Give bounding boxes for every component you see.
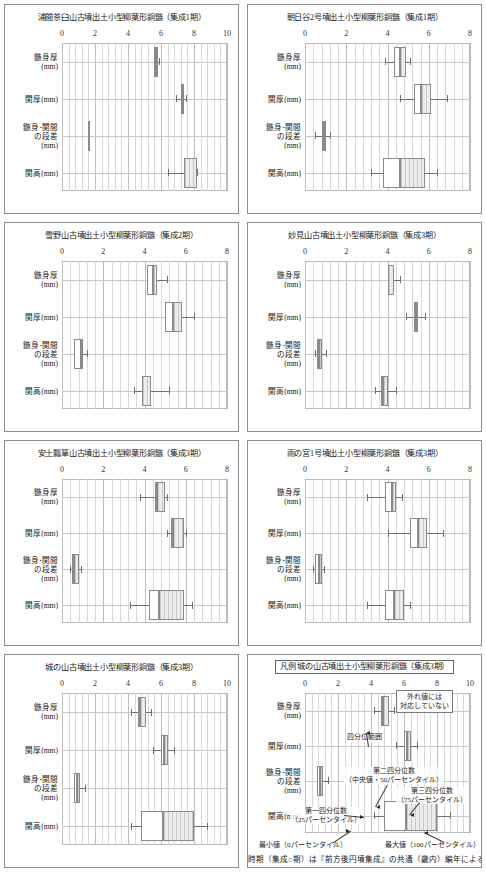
gridline-major bbox=[103, 261, 104, 409]
y-axis-label-3: 鏃身-関間の段差(mm) bbox=[247, 122, 301, 149]
x-tick-label: 8 bbox=[468, 465, 472, 474]
gridline-minor bbox=[121, 693, 122, 845]
x-tick-label: 6 bbox=[159, 679, 163, 688]
x-tick-label: 4 bbox=[143, 247, 147, 256]
whisker-cap-max bbox=[186, 95, 187, 102]
gridline-major bbox=[186, 479, 187, 623]
y-axis-label-2: 関厚(mm) bbox=[4, 94, 58, 103]
gridline-major bbox=[62, 479, 63, 623]
leader-arrow-1 bbox=[366, 731, 370, 735]
gridline-minor bbox=[421, 479, 422, 623]
y-axis-label-1: 鏃身厚(mm) bbox=[247, 53, 301, 71]
chart-title: 安土瓢箪山古墳出土小型柳葉形銅鏃（集成3期） bbox=[5, 446, 238, 458]
plot-frame bbox=[62, 43, 227, 191]
gridline-minor bbox=[404, 261, 405, 409]
whisker-cap-max bbox=[169, 387, 170, 394]
plot-area: 02468鏃身厚(mm)関厚(mm)鏃身-関間の段差(mm)関高(mm) bbox=[305, 43, 470, 191]
whisker-cap-min bbox=[406, 313, 407, 320]
gridline-major bbox=[62, 693, 63, 845]
gridline-minor bbox=[379, 479, 380, 623]
y-axis-label-2: 関厚(mm) bbox=[247, 94, 301, 103]
leader-arrow-5 bbox=[346, 829, 350, 833]
gridline-category bbox=[62, 750, 227, 751]
box-median-q3 bbox=[388, 265, 394, 295]
whisker-cap-max bbox=[207, 823, 208, 830]
gridline-minor bbox=[120, 261, 121, 409]
x-tick-label: 10 bbox=[466, 679, 474, 688]
gridline-minor bbox=[120, 479, 121, 623]
y-axis-label-2: 関厚(mm) bbox=[247, 312, 301, 321]
figure-grid: 浦間茶臼山古墳出土小型柳葉形銅鏃（集成1期）0246810鏃身厚(mm)関厚(m… bbox=[0, 0, 486, 872]
gridline-minor bbox=[87, 479, 88, 623]
x-tick-label: 0 bbox=[60, 679, 64, 688]
gridline-minor bbox=[462, 479, 463, 623]
y-axis-label-3: 鏃身-関間の段差(mm) bbox=[4, 556, 58, 583]
y-axis-label-1: 鏃身厚(mm) bbox=[4, 271, 58, 289]
whisker-line bbox=[134, 391, 169, 392]
whisker-cap-min bbox=[375, 387, 376, 394]
gridline-minor bbox=[330, 43, 331, 191]
x-tick-label: 4 bbox=[369, 679, 373, 688]
gridline-minor bbox=[202, 479, 203, 623]
gridline-minor bbox=[220, 693, 221, 845]
gridline-minor bbox=[70, 261, 71, 409]
y-axis-label-1: 鏃身厚(mm) bbox=[4, 703, 58, 721]
box-q1-median bbox=[410, 518, 418, 548]
y-axis-label-4: 関高(mm) bbox=[4, 386, 58, 395]
gridline-major bbox=[194, 693, 195, 845]
x-tick-label: 4 bbox=[386, 29, 390, 38]
box-median-q3 bbox=[407, 731, 410, 761]
gridline-minor bbox=[219, 479, 220, 623]
gridline-minor bbox=[102, 43, 103, 191]
whisker-cap-max bbox=[410, 602, 411, 609]
gridline-minor bbox=[404, 479, 405, 623]
chart-panel-5: 安土瓢箪山古墳出土小型柳葉形銅鏃（集成3期）02468鏃身厚(mm)関厚(mm)… bbox=[4, 440, 239, 646]
y-axis-label-3: 鏃身-関間の段差(mm) bbox=[4, 340, 58, 367]
gridline-minor bbox=[108, 43, 109, 191]
y-axis-label-1: 鏃身厚(mm) bbox=[247, 271, 301, 289]
box-median-q3 bbox=[163, 811, 194, 841]
whisker-cap-max bbox=[174, 747, 175, 754]
gridline-major bbox=[145, 479, 146, 623]
gridline-minor bbox=[330, 261, 331, 409]
whisker-cap-min bbox=[130, 602, 131, 609]
box-median-q3 bbox=[383, 376, 387, 406]
box-median-q3 bbox=[153, 265, 157, 295]
gridline-category bbox=[62, 99, 227, 100]
x-tick-label: 2 bbox=[344, 465, 348, 474]
whisker-cap-max bbox=[326, 350, 327, 357]
gridline-minor bbox=[444, 693, 445, 833]
box-median-q3 bbox=[184, 158, 197, 188]
gridline-minor bbox=[108, 693, 109, 845]
leader-arrow-4 bbox=[360, 815, 364, 819]
gridline-major bbox=[470, 693, 471, 833]
whisker-cap-max bbox=[447, 95, 448, 102]
whisker-cap-max bbox=[81, 566, 82, 573]
x-tick-label: 2 bbox=[93, 679, 97, 688]
gridline-minor bbox=[87, 261, 88, 409]
gridline-major bbox=[470, 43, 471, 191]
gridline-major bbox=[371, 693, 372, 833]
gridline-minor bbox=[174, 43, 175, 191]
box-median-q3 bbox=[324, 121, 326, 151]
gridline-major bbox=[305, 479, 306, 623]
annotation-iqr: 四分位範囲 bbox=[346, 733, 383, 742]
whisker-cap-min bbox=[313, 566, 314, 573]
whisker-cap-max bbox=[186, 530, 187, 537]
gridline-minor bbox=[69, 693, 70, 845]
y-axis-label-1: 鏃身厚(mm) bbox=[247, 488, 301, 506]
whisker-cap-max bbox=[402, 494, 403, 501]
whisker-cap-min bbox=[315, 132, 316, 139]
gridline-minor bbox=[355, 43, 356, 191]
box-median-q3 bbox=[400, 47, 406, 77]
gridline-minor bbox=[214, 43, 215, 191]
gridline-minor bbox=[178, 261, 179, 409]
gridline-minor bbox=[363, 261, 364, 409]
box-median-q3 bbox=[319, 554, 321, 584]
whisker-cap-max bbox=[85, 785, 86, 792]
whisker-cap-max bbox=[151, 709, 152, 716]
whisker-cap-max bbox=[425, 313, 426, 320]
whisker-cap-min bbox=[168, 169, 169, 176]
whisker-cap-min bbox=[176, 95, 177, 102]
gridline-minor bbox=[421, 261, 422, 409]
